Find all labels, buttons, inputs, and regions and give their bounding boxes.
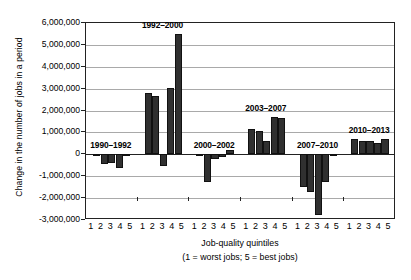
period-label-2000-2002: 2000–2002 — [194, 140, 235, 150]
plot-area — [85, 22, 395, 219]
period-label-1990-1992: 1990–1992 — [90, 140, 131, 150]
gridline — [86, 176, 394, 177]
bar — [204, 154, 211, 181]
bar — [315, 154, 322, 215]
y-axis-tick-label: 2,000,000 — [20, 105, 80, 115]
bar — [300, 154, 307, 186]
zero-axis-line — [86, 154, 394, 155]
y-axis-tick-mark — [81, 219, 85, 220]
x-axis-quintile-labels: 1 2 3 4 5 — [292, 221, 344, 231]
bar — [123, 154, 130, 156]
period-label-2010-2013: 2010–2013 — [349, 125, 390, 135]
bar — [167, 88, 174, 155]
bar — [271, 117, 278, 154]
bar — [351, 139, 358, 154]
y-axis-tick-label: 1,000,000 — [20, 126, 80, 136]
bar — [381, 139, 388, 154]
y-axis-tick-label: 4,000,000 — [20, 61, 80, 71]
bar — [219, 154, 226, 156]
bar — [211, 154, 218, 159]
x-axis-quintile-labels: 1 2 3 4 5 — [343, 221, 395, 231]
x-axis-tick-mark — [343, 197, 344, 201]
bar — [175, 34, 182, 154]
bar — [152, 96, 159, 154]
x-axis-tick-mark — [188, 197, 189, 201]
x-axis-quintile-labels: 1 2 3 4 5 — [137, 221, 189, 231]
bar — [145, 93, 152, 155]
bar — [101, 154, 108, 164]
x-axis-tick-mark — [292, 197, 293, 201]
bar — [248, 129, 255, 154]
y-axis-tick-mark — [81, 88, 85, 89]
bar — [160, 154, 167, 166]
y-axis-tick-mark — [81, 197, 85, 198]
bar — [307, 154, 314, 191]
gridline — [86, 45, 394, 46]
bar — [226, 150, 233, 154]
y-axis-tick-label: -2,000,000 — [20, 192, 80, 202]
x-axis-quintile-labels: 1 2 3 4 5 — [85, 221, 137, 231]
x-axis-tick-mark — [240, 197, 241, 201]
bar — [108, 154, 115, 162]
bar — [330, 154, 337, 156]
bar — [116, 154, 123, 168]
bar — [263, 141, 270, 154]
x-axis-category-labels: 1 2 3 4 51 2 3 4 51 2 3 4 51 2 3 4 51 2 … — [85, 221, 395, 235]
bar — [322, 154, 329, 182]
bar — [256, 131, 263, 154]
gridline — [86, 67, 394, 68]
y-axis-tick-mark — [81, 66, 85, 67]
y-axis-tick-mark — [81, 175, 85, 176]
y-axis-tick-mark — [81, 153, 85, 154]
bar — [359, 141, 366, 154]
x-axis-quintile-labels: 1 2 3 4 5 — [188, 221, 240, 231]
y-axis-tick-label: 3,000,000 — [20, 83, 80, 93]
y-axis-tick-mark — [81, 131, 85, 132]
y-axis-tick-label: 5,000,000 — [20, 39, 80, 49]
y-axis-tick-label: -3,000,000 — [20, 214, 80, 224]
y-axis-tick-mark — [81, 22, 85, 23]
bar — [374, 143, 381, 155]
bar — [93, 154, 100, 156]
bar — [278, 118, 285, 154]
y-axis-tick-mark — [81, 110, 85, 111]
gridline — [86, 89, 394, 90]
y-axis-tick-mark — [81, 44, 85, 45]
x-axis-title-note: (1 = worst jobs; 5 = best jobs) — [85, 252, 395, 262]
bar — [366, 141, 373, 154]
period-label-2003-2007: 2003–2007 — [245, 103, 286, 113]
y-axis-tick-label: 0 — [20, 148, 80, 158]
x-axis-tick-mark — [137, 197, 138, 201]
period-label-1992-2000: 1992–2000 — [142, 20, 183, 30]
y-axis-tick-label: 6,000,000 — [20, 17, 80, 27]
x-axis-title: Job-quality quintiles — [85, 238, 395, 248]
x-axis-quintile-labels: 1 2 3 4 5 — [240, 221, 292, 231]
jobs-by-quintile-bar-chart: Change in the number of jobs in a period… — [0, 0, 411, 280]
bar — [196, 154, 203, 156]
gridline — [86, 111, 394, 112]
y-axis-tick-label: -1,000,000 — [20, 170, 80, 180]
period-label-2007-2010: 2007–2010 — [297, 140, 338, 150]
